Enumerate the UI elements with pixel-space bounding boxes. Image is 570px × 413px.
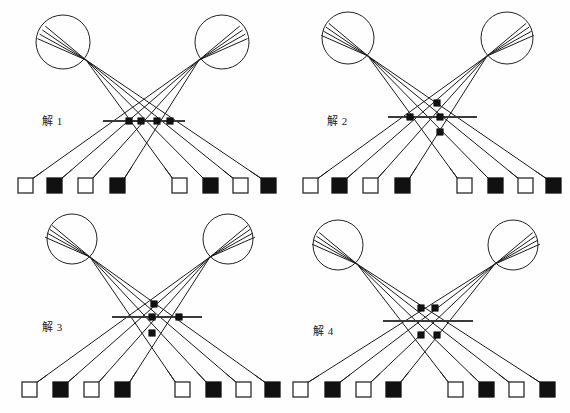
intersection-node-4 — [167, 118, 173, 124]
lens-fan-left-2 — [317, 236, 357, 264]
object-square-3 — [84, 382, 99, 397]
panel-diagram-3 — [0, 207, 285, 413]
object-stem-8 — [250, 171, 262, 179]
object-square-5 — [172, 178, 187, 193]
lens-fan-left-2 — [326, 27, 368, 56]
object-stem-1 — [36, 375, 47, 383]
object-square-8 — [265, 382, 280, 397]
object-stem-8 — [535, 171, 547, 179]
intersection-node-2 — [138, 118, 144, 124]
intersection-node-1 — [126, 118, 132, 124]
object-square-5 — [175, 382, 190, 397]
object-stem-5 — [440, 372, 449, 383]
intersection-node-4 — [437, 129, 443, 135]
ray-right-focus-3 — [124, 60, 199, 179]
figure-root: 解 1解 2解 3解 4 — [0, 0, 570, 413]
object-square-1 — [22, 382, 37, 397]
object-square-8 — [261, 178, 276, 193]
object-stem-5 — [165, 168, 173, 179]
lens-fan-left-3 — [320, 233, 357, 264]
object-square-7 — [518, 178, 533, 193]
lens-fan-right-3 — [487, 36, 533, 56]
object-stem-1 — [32, 171, 43, 179]
object-square-6 — [206, 382, 221, 397]
object-square-1 — [293, 382, 308, 397]
lens-fan-right-1 — [487, 27, 529, 56]
object-square-4 — [115, 382, 130, 397]
lens-fan-right-3 — [199, 39, 247, 60]
panel-label-4: 解 4 — [313, 322, 334, 338]
object-square-3 — [363, 178, 378, 193]
left-lens-circle — [322, 12, 374, 64]
lens-fan-right-2 — [199, 34, 245, 60]
intersection-node-2 — [432, 305, 438, 311]
intersection-node-4 — [149, 330, 155, 336]
ray-left-focus-0 — [357, 264, 449, 383]
intersection-node-3 — [176, 314, 182, 320]
lens-fan-left-2 — [50, 229, 90, 257]
panel-label-3: 解 3 — [42, 318, 63, 334]
intersection-node-3 — [437, 114, 443, 120]
solution-panel-4 — [285, 207, 570, 413]
intersection-node-1 — [434, 100, 440, 106]
ray-left-focus-3 — [357, 264, 541, 383]
panel-label-2: 解 2 — [327, 112, 348, 128]
lens-fan-left-3 — [53, 226, 90, 257]
lens-fan-right-1 — [199, 30, 242, 60]
object-stem-5 — [168, 371, 176, 383]
object-square-5 — [448, 382, 463, 397]
object-stem-2 — [339, 375, 350, 383]
lens-fan-right-0 — [495, 233, 532, 264]
object-stem-5 — [450, 168, 458, 179]
intersection-node-3 — [418, 332, 424, 338]
object-square-2 — [332, 178, 347, 193]
object-square-5 — [457, 178, 472, 193]
lens-fan-right-2 — [495, 240, 538, 264]
solution-panel-3 — [0, 207, 285, 413]
lens-fan-right-1 — [210, 229, 250, 257]
object-stem-8 — [255, 375, 266, 383]
object-square-7 — [233, 178, 248, 193]
solution-panel-1 — [0, 0, 285, 206]
object-stem-4 — [124, 167, 132, 179]
lens-fan-left-0 — [322, 36, 368, 56]
panel-diagram-4 — [285, 207, 570, 413]
panel-label-1: 解 1 — [42, 112, 63, 128]
intersection-node-4 — [434, 332, 440, 338]
left-lens-circle — [47, 214, 97, 264]
object-square-1 — [18, 178, 33, 193]
ray-left-focus-1 — [357, 264, 480, 383]
lens-fan-right-2 — [487, 31, 531, 56]
ray-right-focus-3 — [400, 264, 495, 383]
object-square-3 — [356, 382, 371, 397]
intersection-node-1 — [151, 301, 157, 307]
lens-fan-left-1 — [324, 31, 368, 56]
lens-fan-right-2 — [210, 233, 253, 257]
lens-fan-right-0 — [487, 24, 526, 56]
lens-fan-left-2 — [43, 30, 86, 60]
ray-right-focus-2 — [370, 264, 495, 383]
lens-fan-right-1 — [495, 236, 535, 264]
intersection-node-2 — [407, 114, 413, 120]
object-square-7 — [509, 382, 524, 397]
lens-fan-left-1 — [40, 34, 86, 60]
object-square-2 — [325, 382, 340, 397]
object-square-4 — [386, 382, 401, 397]
lens-fan-left-3 — [329, 24, 368, 56]
object-square-2 — [53, 382, 68, 397]
object-stem-4 — [129, 371, 137, 383]
object-square-8 — [546, 178, 561, 193]
ray-right-focus-1 — [67, 257, 210, 383]
solution-panel-2 — [285, 0, 570, 206]
object-square-6 — [203, 178, 218, 193]
lens-fan-left-1 — [314, 240, 357, 264]
panel-diagram-1 — [0, 0, 285, 206]
right-lens-circle — [203, 214, 253, 264]
object-square-4 — [110, 178, 125, 193]
object-square-7 — [236, 382, 251, 397]
lens-fan-right-0 — [210, 226, 247, 257]
lens-fan-right-0 — [199, 26, 239, 60]
panel-diagram-2 — [285, 0, 570, 206]
object-square-3 — [78, 178, 93, 193]
intersection-node-1 — [418, 305, 424, 311]
